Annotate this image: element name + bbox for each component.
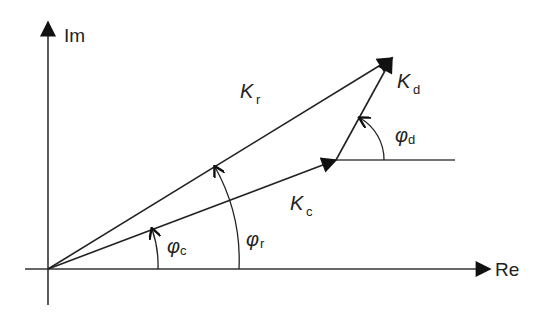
label-kd: K d (397, 70, 420, 97)
svg-text:d: d (413, 82, 420, 97)
svg-text:K: K (240, 80, 255, 102)
angle-arc-phi-c (152, 229, 158, 269)
im-axis-label: Im (64, 25, 85, 46)
re-axis-label: Re (495, 259, 519, 280)
phasor-diagram: Im Re K r K c K d φ c φ r φ d (0, 0, 547, 333)
svg-text:r: r (260, 236, 265, 251)
angle-arc-phi-r (215, 167, 239, 269)
label-phi-d: φ d (395, 124, 415, 147)
label-phi-r: φ r (246, 228, 265, 251)
angle-arc-phi-d (360, 118, 384, 160)
vector-kc (48, 160, 336, 269)
svg-text:φ: φ (167, 235, 180, 257)
vector-kr (48, 58, 392, 269)
svg-text:K: K (397, 70, 412, 92)
svg-text:r: r (256, 92, 261, 107)
vector-kd (336, 58, 392, 160)
svg-text:φ: φ (246, 228, 259, 250)
svg-text:φ: φ (395, 124, 408, 146)
svg-text:c: c (180, 243, 187, 258)
svg-text:d: d (408, 132, 415, 147)
label-kr: K r (240, 80, 261, 107)
label-phi-c: φ c (167, 235, 187, 258)
label-kc: K c (290, 192, 313, 219)
svg-text:c: c (306, 204, 313, 219)
svg-text:K: K (290, 192, 305, 214)
